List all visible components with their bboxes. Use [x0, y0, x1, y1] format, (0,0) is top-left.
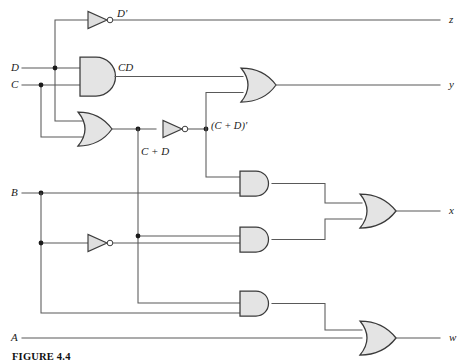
wire-b-to-and-w	[41, 193, 240, 313]
wire-c-to-or	[41, 85, 84, 137]
gate-and-x-lower	[240, 219, 362, 252]
gate-or-cd	[78, 112, 240, 303]
wire-and-x-lower-to-or-x	[272, 219, 362, 240]
inverter-d-bubble	[107, 17, 113, 23]
gate-inverter-b	[88, 235, 240, 252]
gate-or-x	[360, 194, 440, 228]
inverter-cd-bubble	[182, 126, 188, 132]
output-label-w: w	[449, 332, 456, 343]
output-label-z: z	[449, 14, 453, 25]
input-label-a: A	[11, 332, 18, 343]
inverter-b-triangle	[88, 235, 107, 252]
wire-group-c-input	[22, 83, 84, 137]
gate-inverter-cd	[163, 93, 243, 178]
output-label-x: x	[449, 205, 454, 216]
junction-dot-b-branch	[39, 241, 44, 246]
inverter-cd-triangle	[163, 121, 182, 138]
and-x-lower-body	[240, 227, 269, 252]
signal-label-cd: CD	[118, 62, 133, 73]
or-cd-body	[78, 112, 112, 146]
gate-and-x-upper	[240, 171, 362, 203]
and-x-upper-body	[240, 171, 269, 196]
junction-dot-c	[39, 83, 44, 88]
gate-inverter-d	[88, 12, 440, 29]
input-label-c: C	[11, 79, 18, 90]
inverter-b-bubble	[107, 240, 113, 246]
logic-circuit-diagram	[0, 0, 463, 361]
wire-and-w-to-or-w	[272, 304, 362, 331]
wire-group-b-input	[22, 191, 240, 313]
inverter-d-triangle	[88, 12, 107, 29]
junction-dot-c-or-d-branch	[136, 234, 141, 239]
or-w-body	[360, 321, 396, 355]
wire-and-x-upper-to-or-x	[272, 184, 362, 204]
signal-label-c-or-d-not: (C + D)'	[211, 121, 247, 132]
gate-and-cd	[80, 57, 243, 96]
junction-dot-d	[53, 66, 58, 71]
gate-or-y	[241, 68, 440, 102]
or-y-body	[241, 68, 276, 102]
signal-label-d-not: D'	[117, 8, 127, 19]
figure-canvas: D C B A z y x w D' CD C + D (C + D)' FIG…	[0, 0, 463, 361]
wire-cdnot-to-and-x-upper	[206, 129, 240, 177]
output-label-y: y	[449, 79, 454, 90]
input-label-d: D	[11, 62, 19, 73]
input-label-b: B	[11, 187, 18, 198]
gate-or-w	[360, 321, 440, 355]
figure-caption: FIGURE 4.4	[12, 351, 71, 361]
wire-group-d-input	[22, 20, 88, 121]
or-x-body	[360, 194, 396, 228]
and-cd-body	[80, 57, 116, 96]
signal-label-c-or-d: C + D	[141, 146, 169, 157]
gate-and-w	[240, 291, 362, 330]
and-w-body	[240, 291, 269, 316]
